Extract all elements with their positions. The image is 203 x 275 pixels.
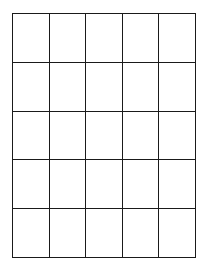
grid-cell bbox=[50, 112, 87, 161]
grid-cell bbox=[50, 14, 87, 63]
grid-cell bbox=[13, 63, 50, 112]
grid-cell bbox=[159, 14, 196, 63]
grid-cell bbox=[50, 160, 87, 209]
grid-cell bbox=[123, 209, 160, 258]
grid-cell bbox=[159, 209, 196, 258]
grid-cell bbox=[13, 14, 50, 63]
grid-cell bbox=[86, 14, 123, 63]
grid-cell bbox=[159, 112, 196, 161]
grid-cell bbox=[86, 112, 123, 161]
grid-cell bbox=[123, 112, 160, 161]
grid-cell bbox=[50, 63, 87, 112]
grid-cell bbox=[159, 63, 196, 112]
empty-grid bbox=[12, 13, 196, 258]
grid-cell bbox=[13, 209, 50, 258]
grid-cell bbox=[123, 14, 160, 63]
grid-cell bbox=[86, 160, 123, 209]
grid-cell bbox=[50, 209, 87, 258]
grid-cell bbox=[86, 63, 123, 112]
grid-cell bbox=[86, 209, 123, 258]
grid-cell bbox=[123, 63, 160, 112]
grid-cell bbox=[123, 160, 160, 209]
grid-cell bbox=[13, 112, 50, 161]
grid-cell bbox=[159, 160, 196, 209]
grid-cell bbox=[13, 160, 50, 209]
